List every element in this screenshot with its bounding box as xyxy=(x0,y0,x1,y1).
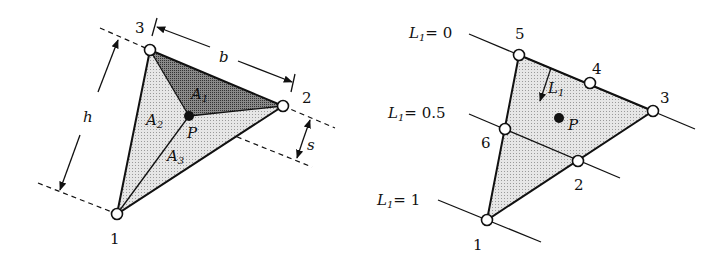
contour-l1-1-label: L1= 1 xyxy=(376,191,420,210)
node-1 xyxy=(112,209,123,220)
node-2-label: 2 xyxy=(574,176,584,194)
height-label: h xyxy=(83,108,93,126)
figure: h b s A1 A2 A3 P 1 2 3 xyxy=(0,0,728,264)
node-6-label: 6 xyxy=(481,134,491,152)
node-2-label: 2 xyxy=(302,89,312,107)
node-6 xyxy=(500,124,511,135)
contour-l1-05-label: L1= 0.5 xyxy=(387,104,446,123)
distance-label: s xyxy=(307,136,315,154)
node-1-label: 1 xyxy=(110,230,120,248)
right-point-p-label: P xyxy=(567,116,579,134)
right-point-p-dot xyxy=(554,113,564,123)
contour-l1-0-label: L1= 0 xyxy=(408,24,452,43)
node-4-label: 4 xyxy=(592,60,602,78)
node-3 xyxy=(648,106,659,117)
point-p-label: P xyxy=(186,124,198,142)
node-5-label: 5 xyxy=(515,25,525,43)
right-triangle-diagram: L1 L1= 0 L1= 0.5 L1= 1 P 1 2 3 4 5 6 xyxy=(376,24,695,254)
left-triangle-diagram: h b s A1 A2 A3 P 1 2 3 xyxy=(38,18,335,248)
node-4 xyxy=(585,78,596,89)
node-3-label: 3 xyxy=(135,19,145,37)
node-1 xyxy=(482,215,493,226)
point-p-dot xyxy=(184,111,194,121)
right-triangle-fill xyxy=(487,55,653,220)
base-label: b xyxy=(219,48,229,66)
node-1-label: 1 xyxy=(473,236,483,254)
node-3 xyxy=(145,45,156,56)
node-2 xyxy=(573,156,584,167)
node-5 xyxy=(514,50,525,61)
node-2 xyxy=(278,101,289,112)
node-3-label: 3 xyxy=(660,89,670,107)
